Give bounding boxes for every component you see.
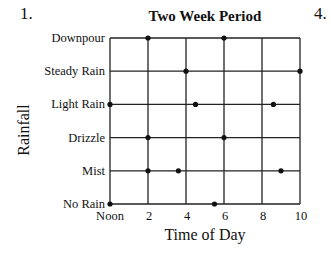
x-tick-label: 6	[205, 209, 245, 223]
data-point	[145, 135, 150, 140]
x-tick-label: Noon	[90, 209, 130, 223]
x-tick-label: 4	[167, 209, 207, 223]
data-point	[271, 102, 276, 107]
y-tick-label: Mist	[82, 164, 105, 178]
data-point	[297, 69, 302, 74]
y-tick-label: Downpour	[52, 31, 105, 45]
data-point	[176, 168, 181, 173]
x-tick-label: 10	[281, 209, 321, 223]
y-tick-label: Light Rain	[51, 97, 105, 111]
y-axis-title: Rainfall	[15, 90, 33, 170]
x-tick-label: 8	[243, 209, 283, 223]
data-point	[221, 135, 226, 140]
data-point	[183, 69, 188, 74]
data-point	[193, 102, 198, 107]
y-tick-label: Steady Rain	[44, 64, 105, 78]
data-point	[107, 102, 112, 107]
x-tick-label: 2	[129, 209, 169, 223]
data-point	[145, 168, 150, 173]
data-point	[221, 35, 226, 40]
data-point	[278, 168, 283, 173]
data-point	[145, 35, 150, 40]
data-point	[107, 201, 112, 206]
x-axis-title: Time of Day	[110, 226, 300, 244]
y-tick-label: Drizzle	[68, 131, 105, 145]
data-point	[212, 201, 217, 206]
